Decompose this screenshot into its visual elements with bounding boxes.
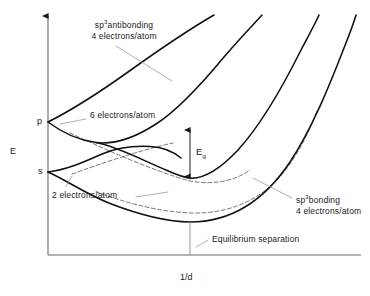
band-structure-figure: E 1/d p s sp3antibonding 4 electrons/ato… — [0, 0, 370, 296]
annotation-six-electrons: 6 electrons/atom — [90, 110, 155, 121]
annotation-equilibrium-separation: Equilibrium separation — [212, 234, 299, 245]
sp3-bonding-line2: 4 electrons/atom — [296, 206, 361, 216]
leader-six-electrons — [60, 119, 86, 124]
sp3-antibonding-line2: 4 electrons/atom — [91, 31, 156, 41]
leader-lines — [60, 46, 292, 247]
diagram-canvas — [0, 0, 370, 296]
leader-two-electrons-right — [136, 192, 168, 197]
dashed-p-descending — [70, 133, 250, 183]
axes — [48, 16, 361, 255]
dashed-bonding-guide — [96, 111, 317, 213]
annotation-two-electrons: 2 electrons/atom — [52, 190, 117, 201]
leader-equilibrium — [196, 240, 208, 247]
annotation-sp3-antibonding: sp3antibonding 4 electrons/atom — [74, 17, 174, 42]
leader-antibonding — [116, 46, 172, 81]
annotation-band-gap: Eg — [196, 146, 206, 162]
annotation-sp3-bonding: sp3bonding 4 electrons/atom — [296, 192, 361, 217]
sp3-antibonding-line1: sp3antibonding — [95, 20, 153, 30]
x-axis-label: 1/d — [180, 272, 193, 282]
level-label-s: s — [38, 166, 43, 176]
sp3-bonding-line1: sp3bonding — [296, 195, 340, 205]
y-axis-label: E — [10, 146, 16, 156]
level-label-p: p — [37, 116, 42, 126]
